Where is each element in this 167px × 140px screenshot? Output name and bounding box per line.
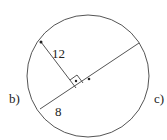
circle [27,15,149,137]
label-8: 8 [55,104,62,119]
center-point [88,78,91,81]
label-c: c) [154,91,164,106]
label-12: 12 [52,46,65,61]
right-angle-dot [75,80,77,82]
label-b: b) [9,91,20,106]
point-on-circle [40,41,43,44]
geometry-diagram: 12 8 b) c) [0,0,167,140]
